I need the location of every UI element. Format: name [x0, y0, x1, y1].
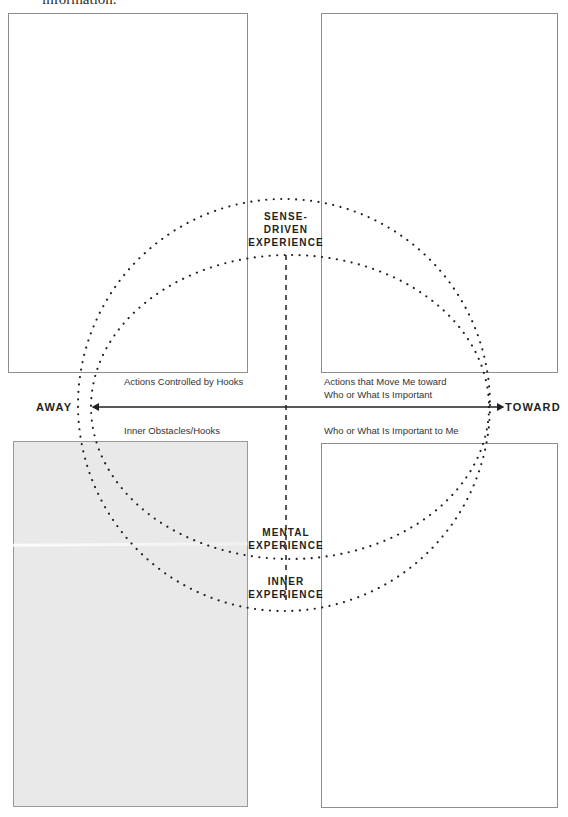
quadrant-top-right-line-1: Actions that Move Me toward	[324, 375, 447, 388]
axis-pole-away: AWAY	[36, 401, 72, 413]
mental-line-2: EXPERIENCE	[236, 539, 336, 552]
top-left-box[interactable]	[8, 13, 248, 373]
bottom-right-box[interactable]	[321, 443, 558, 808]
quadrant-label-top-left: Actions Controlled by Hooks	[124, 375, 243, 388]
inner-line-1: INNER	[236, 575, 336, 588]
sense-driven-line-1: SENSE-	[236, 210, 336, 223]
axis-pole-toward: TOWARD	[505, 401, 561, 413]
running-body-text: information.	[42, 0, 117, 8]
inner-experience-label: INNER EXPERIENCE	[236, 575, 336, 601]
top-right-box[interactable]	[321, 13, 558, 373]
quadrant-label-bottom-right: Who or What Is Important to Me	[324, 424, 459, 437]
quadrant-top-right-line-2: Who or What Is Important	[324, 388, 447, 401]
inner-line-2: EXPERIENCE	[236, 588, 336, 601]
mental-line-1: MENTAL	[236, 526, 336, 539]
sense-driven-line-3: EXPERIENCE	[236, 236, 336, 249]
quadrant-label-top-right: Actions that Move Me toward Who or What …	[324, 375, 447, 401]
mental-experience-label: MENTAL EXPERIENCE	[236, 526, 336, 552]
quadrant-label-bottom-left: Inner Obstacles/Hooks	[124, 424, 220, 437]
worksheet-page: information. SENSE- DRIVEN EXPERIENCE ME…	[0, 0, 568, 817]
sense-driven-line-2: DRIVEN	[236, 223, 336, 236]
bottom-left-box[interactable]	[13, 441, 248, 807]
sense-driven-experience-label: SENSE- DRIVEN EXPERIENCE	[236, 210, 336, 249]
